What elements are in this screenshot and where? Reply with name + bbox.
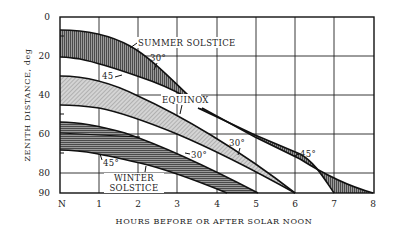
y-tick: 20 [39,51,51,61]
y-tick: 60 [39,129,51,139]
x-tick: N [58,199,66,209]
equinox-30-label: 30° [229,138,245,148]
equinox-label: EQUINOX [162,95,209,105]
y-tick: 40 [39,90,51,100]
y-axis-ticks: 0 20 40 60 80 90 [39,12,51,198]
x-tick: 5 [253,199,259,209]
summer-30-label: 30° [150,53,166,63]
summer-solstice-band [60,30,373,193]
y-tick: 80 [39,168,51,178]
x-tick: 7 [331,199,337,209]
summer-solstice-label: SUMMER SOLSTICE [138,38,236,48]
zenith-distance-chart: 0 20 40 60 80 90 N 1 2 3 4 5 6 7 8 HOURS… [0,0,397,236]
x-tick: 3 [174,199,180,209]
x-tick: 6 [292,199,298,209]
x-tick: 1 [96,199,102,209]
equinox-arrow [180,105,182,114]
summer-45-label: 45 [102,71,114,81]
x-tick: 2 [135,199,141,209]
y-tick: 90 [39,188,51,198]
x-axis-ticks: N 1 2 3 4 5 6 7 8 [58,199,376,209]
summer-45-arrow [115,75,122,77]
winter-45-label: 45° [103,158,119,168]
x-tick: 4 [214,199,220,209]
y-tick: 0 [44,12,50,22]
winter-30-label: 30° [191,150,207,160]
winter-label-line2: SOLSTICE [109,183,158,193]
winter-label-line1: WINTER [114,173,154,183]
x-tick: 8 [370,199,376,209]
x-axis-title: HOURS BEFORE OR AFTER SOLAR NOON [116,217,313,226]
y-axis-title: ZENITH DISTANCE, deg [23,48,32,161]
summer-right-45-label: 45° [300,149,316,159]
winter-30-arrow [185,153,190,154]
winter-arrow [145,166,146,172]
